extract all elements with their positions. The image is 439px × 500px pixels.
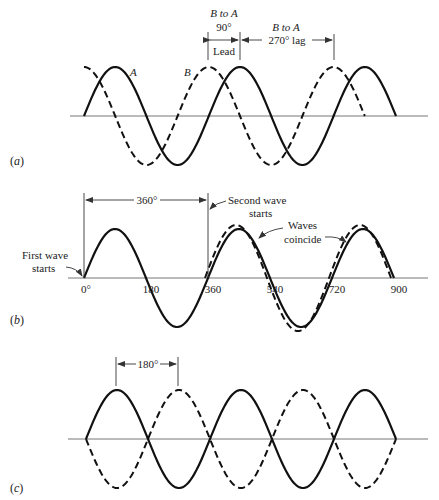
lag-top-label: B to A xyxy=(272,21,300,33)
first-wave-label-1: First wave xyxy=(22,249,68,261)
coincide-label-2: coincide xyxy=(284,233,321,245)
panel-b: 360° Second wave starts Waves coincide F… xyxy=(10,193,428,331)
panel-c: 180° (c) xyxy=(10,357,428,495)
tick-label: 900 xyxy=(391,283,408,295)
panel-label-b: (b) xyxy=(10,313,24,327)
phase-diagram: A B B to A 90° Lead B to A 270° lag (a) … xyxy=(0,0,439,500)
tick-label: 180 xyxy=(143,283,160,295)
second-wave-label-2: starts xyxy=(249,207,272,219)
coincide-label-1: Waves xyxy=(288,219,317,231)
tick-label: 360 xyxy=(205,283,222,295)
first-wave-label-2: starts xyxy=(32,262,55,274)
first-wave-pointer xyxy=(66,267,82,276)
wave-label-B: B xyxy=(184,66,191,78)
tick-labels-b: 0°180360540720900 xyxy=(81,283,408,295)
wave-label-A: A xyxy=(129,66,137,78)
coincide-pointer-right xyxy=(325,237,346,242)
lead-top-label: B to A xyxy=(210,7,238,19)
second-wave-pointer xyxy=(210,201,226,209)
panel-label-a: (a) xyxy=(10,154,24,168)
panel-a: A B B to A 90° Lead B to A 270° lag (a) xyxy=(10,7,428,168)
lead-word-label: Lead xyxy=(213,45,235,57)
panel-label-c: (c) xyxy=(10,481,23,495)
lead-angle-label: 90° xyxy=(216,21,231,33)
tick-label: 720 xyxy=(329,283,346,295)
span-label-b: 360° xyxy=(137,194,158,206)
tick-label: 540 xyxy=(267,283,284,295)
span-label-c: 180° xyxy=(138,358,159,370)
coincide-pointer-left xyxy=(259,228,283,238)
lag-text-label: 270° lag xyxy=(268,34,306,46)
second-wave-label-1: Second wave xyxy=(228,194,286,206)
tick-label: 0° xyxy=(81,283,91,295)
